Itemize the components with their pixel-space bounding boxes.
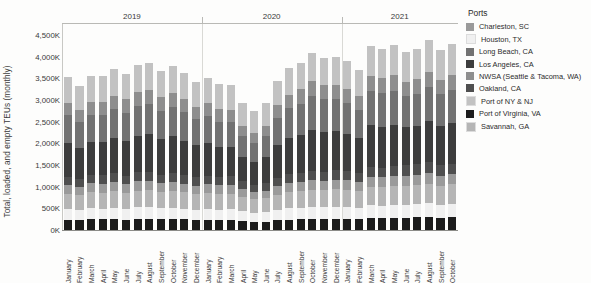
legend-item[interactable]: Savannah, GA <box>466 122 588 132</box>
bar-segment <box>425 40 433 71</box>
x-axis-tick-label: February <box>213 232 225 283</box>
x-axis-tick-label: June <box>400 232 412 283</box>
bar-segment <box>250 111 258 133</box>
bar-stack[interactable] <box>180 73 188 230</box>
bar-stack[interactable] <box>355 70 363 230</box>
bar-stack[interactable] <box>448 44 456 230</box>
legend-item[interactable]: Charleston, SC <box>466 22 588 31</box>
x-axis-tick-text: August <box>425 262 432 283</box>
y-axis-title: Total, loaded, and empty TEUs (monthly) <box>0 0 15 283</box>
legend-item[interactable]: NWSA (Seattle & Tacoma, WA) <box>466 72 588 81</box>
bar-segment <box>308 219 316 230</box>
bar-segment <box>413 164 421 174</box>
legend-item[interactable]: Los Angeles, CA <box>466 60 588 69</box>
bar-segment <box>250 133 258 143</box>
bar-segment <box>320 99 328 132</box>
bar-segment <box>64 209 72 219</box>
legend-item[interactable]: Houston, TX <box>466 34 588 44</box>
bar-segment <box>145 90 153 104</box>
bar-segment <box>157 219 165 230</box>
bar-segment <box>262 103 270 125</box>
x-axis-tick-text: April <box>99 270 106 283</box>
bar-segment <box>343 190 351 207</box>
bar-stack[interactable] <box>332 57 340 230</box>
bar-stack[interactable] <box>390 45 398 230</box>
bar-stack[interactable] <box>425 40 433 230</box>
x-axis-tick-label: September <box>435 232 447 283</box>
x-axis-tick-text: May <box>251 271 258 283</box>
bar-segment <box>134 207 142 218</box>
legend-label: NWSA (Seattle & Tacoma, WA) <box>479 72 581 81</box>
bar-stack[interactable] <box>238 103 246 230</box>
bar-segment <box>297 208 305 219</box>
bar-stack[interactable] <box>343 61 351 230</box>
bar-stack[interactable] <box>262 103 270 230</box>
bar-stack[interactable] <box>99 76 107 230</box>
legend-item[interactable]: Long Beach, CA <box>466 47 588 56</box>
bar-segment <box>204 184 212 193</box>
bar-segment <box>262 183 270 190</box>
year-label: 2019 <box>123 12 141 21</box>
x-axis-tick-text: April <box>239 270 246 283</box>
bar-stack[interactable] <box>64 77 72 230</box>
bar-stack[interactable] <box>134 65 142 230</box>
bar-segment <box>87 102 95 115</box>
bar-segment <box>285 95 293 109</box>
x-axis-tick-label: October <box>307 232 319 283</box>
bar-stack[interactable] <box>413 49 421 230</box>
legend-swatch-icon <box>466 48 474 56</box>
bar-segment <box>262 212 270 221</box>
bar-stack[interactable] <box>367 46 375 230</box>
bar-segment <box>110 69 118 96</box>
bar-segment <box>215 177 223 185</box>
bar-segment <box>285 68 293 94</box>
x-axis-tick-label: March <box>225 232 237 283</box>
bar-segment <box>448 204 456 217</box>
bar-stack[interactable] <box>320 58 328 230</box>
bar-segment <box>75 210 83 220</box>
bar-segment <box>169 136 177 172</box>
bar-stack[interactable] <box>75 86 83 230</box>
bar-segment <box>250 199 258 212</box>
bar-segment <box>367 218 375 230</box>
legend-swatch-icon <box>466 23 474 31</box>
bar-stack[interactable] <box>273 81 281 230</box>
bar-segment <box>390 218 398 230</box>
bar-segment <box>285 220 293 230</box>
bar-stack[interactable] <box>297 63 305 230</box>
bar-stack[interactable] <box>285 68 293 230</box>
bar-stack[interactable] <box>157 71 165 230</box>
bar-segment <box>87 219 95 230</box>
legend-item[interactable]: Oakland, CA <box>466 84 588 93</box>
legend-item[interactable]: Port of NY & NJ <box>466 96 588 106</box>
x-axis-tick-text: November <box>181 253 188 283</box>
legend-label: Houston, TX <box>481 35 522 44</box>
bar-segment <box>180 219 188 230</box>
bar-stack[interactable] <box>308 53 316 230</box>
bar-segment <box>320 172 328 181</box>
legend-item[interactable]: Port of Virginia, VA <box>466 109 588 118</box>
bar-stack[interactable] <box>250 111 258 230</box>
bar-stack[interactable] <box>215 84 223 230</box>
bar-stack[interactable] <box>227 85 235 230</box>
bar-stack[interactable] <box>169 66 177 230</box>
bar-stack[interactable] <box>145 62 153 230</box>
bar-segment <box>297 191 305 208</box>
bar-stack[interactable] <box>436 50 444 230</box>
bar-stack[interactable] <box>87 76 95 230</box>
bar-stack[interactable] <box>402 52 410 230</box>
bar-segment <box>87 115 95 142</box>
bar-stack[interactable] <box>110 69 118 230</box>
bar-stack[interactable] <box>204 78 212 230</box>
bar-segment <box>355 138 363 173</box>
bar-segment <box>64 194 72 210</box>
bar-stack[interactable] <box>378 49 386 230</box>
bar-segment <box>64 143 72 177</box>
bar-stack[interactable] <box>122 74 130 230</box>
legend-label: Oakland, CA <box>479 84 521 93</box>
bar-stack[interactable] <box>192 82 200 230</box>
year-separator <box>202 24 203 230</box>
bar-segment <box>75 122 83 148</box>
bar-segment <box>273 220 281 230</box>
bar-segment <box>157 183 165 192</box>
